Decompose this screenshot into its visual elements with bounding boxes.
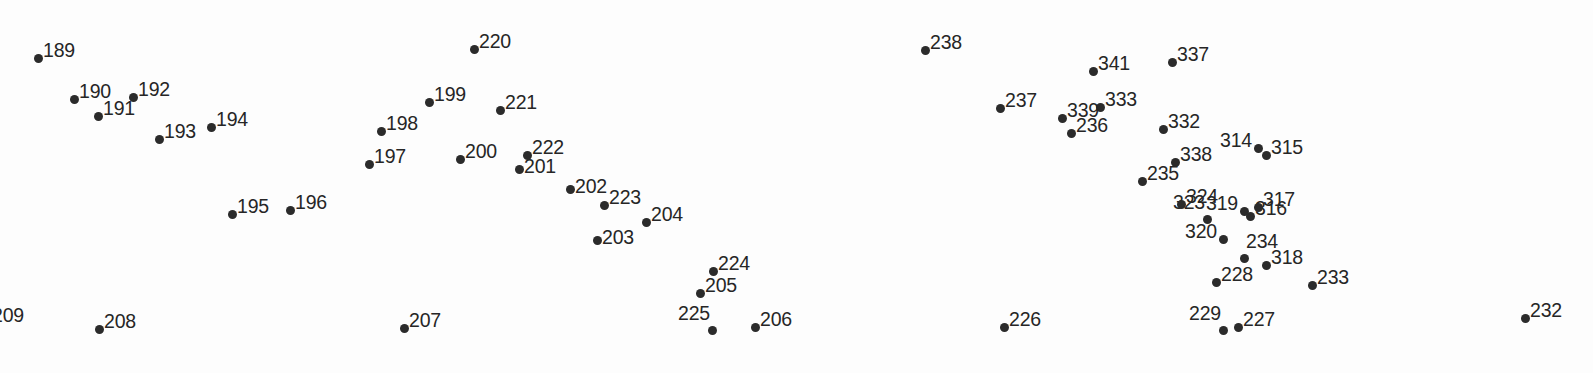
point-label-224: 224 xyxy=(718,254,750,274)
point-label-205: 205 xyxy=(705,276,737,296)
point-marker-226 xyxy=(1000,323,1009,332)
point-marker-314 xyxy=(1254,144,1263,153)
point-label-315: 315 xyxy=(1271,138,1303,158)
point-label-318: 318 xyxy=(1271,248,1303,268)
point-marker-220 xyxy=(470,45,479,54)
point-marker-227 xyxy=(1234,323,1243,332)
point-marker-341 xyxy=(1089,67,1098,76)
point-marker-232 xyxy=(1521,314,1530,323)
point-label-235: 235 xyxy=(1147,164,1179,184)
point-marker-198 xyxy=(377,127,386,136)
point-label-333: 333 xyxy=(1105,90,1137,110)
point-marker-223 xyxy=(600,201,609,210)
point-label-341: 341 xyxy=(1098,54,1130,74)
point-label-227: 227 xyxy=(1243,310,1275,330)
point-marker-203 xyxy=(593,236,602,245)
point-label-228: 228 xyxy=(1221,265,1253,285)
point-marker-319 xyxy=(1240,207,1249,216)
point-marker-193 xyxy=(155,135,164,144)
point-marker-221 xyxy=(496,106,505,115)
point-label-195: 195 xyxy=(237,197,269,217)
point-label-208: 208 xyxy=(104,312,136,332)
point-marker-320 xyxy=(1219,235,1228,244)
point-label-320: 320 xyxy=(1185,222,1217,242)
point-marker-204 xyxy=(642,218,651,227)
point-label-191: 191 xyxy=(103,99,135,119)
point-label-222: 222 xyxy=(532,138,564,158)
point-marker-229 xyxy=(1219,326,1228,335)
point-marker-208 xyxy=(95,325,104,334)
point-marker-324 xyxy=(1177,200,1186,209)
point-label-220: 220 xyxy=(479,32,511,52)
point-label-332: 332 xyxy=(1168,112,1200,132)
point-marker-200 xyxy=(456,155,465,164)
point-marker-237 xyxy=(996,104,1005,113)
point-label-202: 202 xyxy=(575,177,607,197)
point-marker-206 xyxy=(751,323,760,332)
point-label-338: 338 xyxy=(1180,145,1212,165)
point-marker-236 xyxy=(1067,129,1076,138)
point-label-339: 339 xyxy=(1067,101,1099,121)
point-label-317: 317 xyxy=(1263,190,1295,210)
point-marker-235 xyxy=(1138,177,1147,186)
point-label-232: 232 xyxy=(1530,301,1562,321)
scatter-plot-canvas: 1891901911921931941951961971981992002012… xyxy=(0,0,1593,373)
point-label-223: 223 xyxy=(609,188,641,208)
point-label-201: 201 xyxy=(524,157,556,177)
point-marker-189 xyxy=(34,54,43,63)
point-label-238: 238 xyxy=(930,33,962,53)
point-marker-199 xyxy=(425,98,434,107)
point-label-203: 203 xyxy=(602,228,634,248)
point-marker-192 xyxy=(129,93,138,102)
point-label-229: 229 xyxy=(1189,304,1221,324)
point-label-204: 204 xyxy=(651,205,683,225)
point-label-226: 226 xyxy=(1009,310,1041,330)
point-marker-195 xyxy=(228,210,237,219)
point-marker-196 xyxy=(286,206,295,215)
point-label-199: 199 xyxy=(434,85,466,105)
point-marker-194 xyxy=(207,123,216,132)
point-marker-228 xyxy=(1212,278,1221,287)
point-marker-222 xyxy=(523,151,532,160)
point-marker-318 xyxy=(1262,261,1271,270)
point-marker-224 xyxy=(709,267,718,276)
point-marker-315 xyxy=(1262,151,1271,160)
point-marker-190 xyxy=(70,95,79,104)
point-label-200: 200 xyxy=(465,142,497,162)
point-label-198: 198 xyxy=(386,114,418,134)
point-label-209: 209 xyxy=(0,306,24,326)
point-label-337: 337 xyxy=(1177,45,1209,65)
point-marker-238 xyxy=(921,46,930,55)
point-label-233: 233 xyxy=(1317,268,1349,288)
point-marker-339 xyxy=(1058,114,1067,123)
point-label-314: 314 xyxy=(1220,131,1252,151)
point-marker-202 xyxy=(566,185,575,194)
point-label-196: 196 xyxy=(295,193,327,213)
point-marker-207 xyxy=(400,324,409,333)
point-label-225: 225 xyxy=(678,304,710,324)
point-marker-225 xyxy=(708,326,717,335)
point-marker-317 xyxy=(1254,203,1263,212)
point-label-197: 197 xyxy=(374,147,406,167)
point-label-324: 324 xyxy=(1186,187,1218,207)
point-marker-234 xyxy=(1240,254,1249,263)
point-marker-337 xyxy=(1168,58,1177,67)
point-label-221: 221 xyxy=(505,93,537,113)
point-marker-338 xyxy=(1171,158,1180,167)
point-marker-332 xyxy=(1159,125,1168,134)
point-label-206: 206 xyxy=(760,310,792,330)
point-label-194: 194 xyxy=(216,110,248,130)
point-label-207: 207 xyxy=(409,311,441,331)
point-label-192: 192 xyxy=(138,80,170,100)
point-label-189: 189 xyxy=(43,41,75,61)
point-marker-323 xyxy=(1203,215,1212,224)
point-marker-233 xyxy=(1308,281,1317,290)
point-label-237: 237 xyxy=(1005,91,1037,111)
point-marker-191 xyxy=(94,112,103,121)
point-label-193: 193 xyxy=(164,122,196,142)
point-marker-197 xyxy=(365,160,374,169)
point-marker-201 xyxy=(515,165,524,174)
point-marker-205 xyxy=(696,289,705,298)
